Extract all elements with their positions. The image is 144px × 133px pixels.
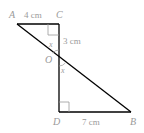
point-label-d: D xyxy=(52,116,61,127)
point-label-c: C xyxy=(56,9,63,20)
right-angle-marker-c xyxy=(48,24,59,35)
measurement-db: 7 cm xyxy=(82,117,100,127)
angle-label-lower: x xyxy=(60,66,65,75)
point-label-b: B xyxy=(130,116,136,127)
point-label-o: O xyxy=(45,54,52,65)
point-label-a: A xyxy=(8,9,16,20)
angle-label-upper: x xyxy=(48,40,53,49)
geometry-diagram: A C O D B 4 cm 3 cm 7 cm x x xyxy=(0,0,144,133)
measurement-ac: 4 cm xyxy=(24,10,42,20)
right-angle-marker-d xyxy=(59,102,69,112)
measurement-co: 3 cm xyxy=(63,36,81,46)
